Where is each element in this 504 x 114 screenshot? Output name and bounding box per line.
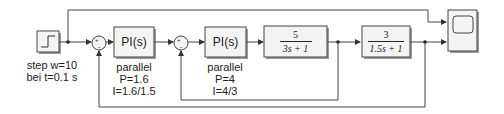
pi2-title: PI(s) [205,35,246,49]
pi2-p: P=4 [195,73,255,85]
tf1-fraction-bar [280,41,312,42]
pi1-i: I=1.6/1.5 [104,85,164,97]
step-block[interactable] [37,31,61,54]
tf1-expression: 5 3s + 1 [264,26,327,57]
step-label-line2: bei t=0.1 s [22,71,82,83]
pi2-form: parallel [195,61,255,73]
tf2-denominator: 1.5s + 1 [369,43,402,54]
step-label-line1: step w=10 [22,59,82,71]
tf1-numerator: 5 [293,29,298,40]
pi1-p: P=1.6 [104,73,164,85]
tf2-fraction-bar [368,41,404,42]
sum2-block[interactable]: + - [174,36,188,50]
step-label: step w=10 bei t=0.1 s [22,59,82,83]
sum1-block[interactable]: + - [92,36,106,50]
tf1-denominator: 3s + 1 [283,43,309,54]
tf2-expression: 3 1.5s + 1 [362,26,410,57]
pi2-i: I=4/3 [195,85,255,97]
pi1-form: parallel [104,61,164,73]
tf2-numerator: 3 [384,29,389,40]
pi2-params: parallel P=4 I=4/3 [195,61,255,97]
scope-block[interactable] [448,10,479,53]
scope-screen-icon [453,16,473,33]
pi1-title: PI(s) [114,35,154,49]
pi1-params: parallel P=1.6 I=1.6/1.5 [104,61,164,97]
